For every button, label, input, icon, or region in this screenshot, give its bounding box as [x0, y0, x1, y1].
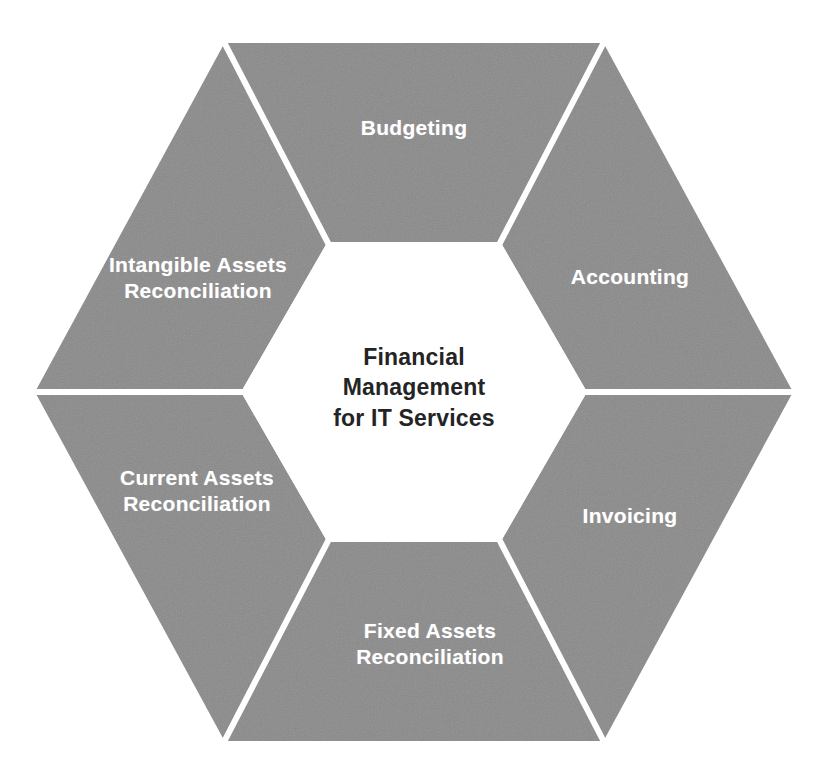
- hexagon-diagram: Budgeting Accounting Invoicing Fixed Ass…: [0, 0, 828, 782]
- center-label: Financial Management for IT Services: [284, 342, 544, 433]
